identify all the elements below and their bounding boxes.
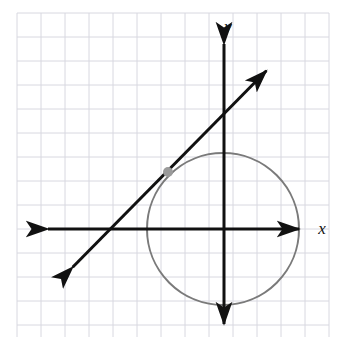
y-axis-label: y bbox=[222, 17, 232, 36]
marked-point bbox=[163, 167, 173, 177]
graph-figure: x y bbox=[0, 0, 340, 343]
x-axis-label: x bbox=[317, 219, 326, 238]
grid-layer bbox=[17, 13, 329, 337]
graph-canvas: x y bbox=[0, 0, 340, 343]
